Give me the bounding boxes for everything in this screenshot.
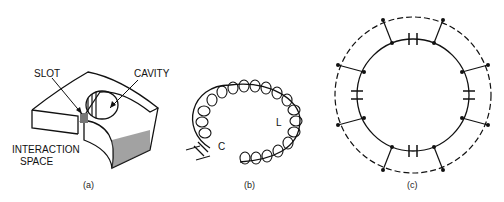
caption-a: (a)	[83, 180, 94, 190]
slot-region	[80, 113, 88, 123]
label-space: SPACE	[20, 156, 53, 167]
spokes	[338, 20, 488, 170]
panel-c-ring-network	[335, 17, 491, 173]
label-interaction: INTERACTION	[12, 144, 80, 155]
capacitor-gaps	[351, 33, 475, 157]
inductor-coils	[196, 80, 302, 164]
label-cavity: CAVITY	[134, 68, 170, 79]
label-slot: SLOT	[34, 68, 60, 79]
caption-c: (c)	[407, 180, 418, 190]
caption-b: (b)	[244, 180, 255, 190]
outer-ring	[335, 17, 491, 173]
block-hatch-face	[112, 130, 150, 168]
label-inductor-l: L	[276, 117, 282, 128]
diagram-canvas: SLOT CAVITY INTERACTION SPACE (a) C L (b…	[0, 0, 504, 202]
junction-dots	[336, 18, 490, 172]
panel-b-lc-loop	[186, 80, 302, 164]
slot-leader	[52, 78, 82, 114]
inner-ring	[357, 39, 469, 151]
label-capacitor-c: C	[218, 141, 225, 152]
